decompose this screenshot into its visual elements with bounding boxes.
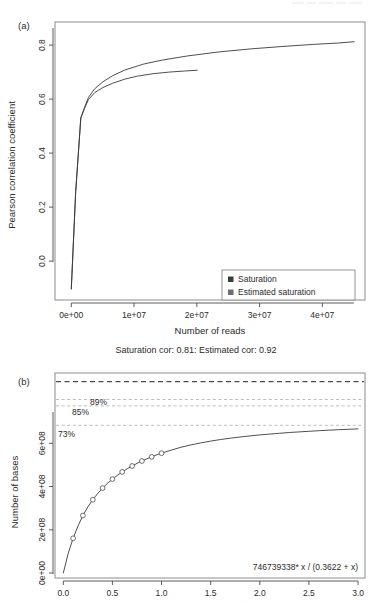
panel-a-y-tick-4: 0.8 (37, 39, 47, 51)
page-header-remnant (292, 2, 362, 4)
panel-a-y-tick-2: 0.4 (37, 147, 47, 159)
panel-a-legend-label-1: Estimated saturation (238, 287, 316, 297)
panel-b-y-tick-3: 6e+08 (37, 431, 47, 455)
panel-a-y-axis-title: Pearson correlation coefficient (6, 101, 17, 229)
panel-a: (a) Pearson correlation coefficient 0.0 … (6, 20, 365, 355)
panel-b-y-axis: 0e+00 2e+08 4e+08 6e+08 (37, 412, 53, 585)
panel-a-plot-frame (55, 22, 365, 300)
legend-swatch-saturation-icon (228, 277, 234, 283)
data-point-marker (130, 464, 135, 469)
panel-a-legend-label-0: Saturation (238, 274, 277, 284)
panel-a-data-area (71, 42, 354, 289)
data-point-marker (140, 459, 145, 464)
panel-a-x-axis: 0e+00 1e+07 2e+07 3e+07 4e+07 (59, 303, 354, 320)
legend-swatch-estimated-saturation-icon (228, 290, 234, 296)
data-point-marker (149, 454, 154, 459)
panel-b-y-tick-1: 2e+08 (37, 518, 47, 542)
panel-a-tag: (a) (18, 20, 30, 31)
panel-b-y-tick-0: 0e+00 (37, 561, 47, 585)
panel-a-y-axis: 0.0 0.2 0.4 0.6 0.8 (37, 28, 53, 267)
panel-b-x-tick-1: 0.5 (106, 588, 118, 598)
data-point-marker (81, 513, 86, 518)
panel-b: (b) Number of bases 0e+00 2e+08 4e+08 6e… (9, 373, 365, 598)
panel-b-y-axis-title: Number of bases (9, 456, 20, 529)
panel-b-x-tick-0: 0.0 (57, 588, 69, 598)
panel-a-x-tick-4: 4e+07 (310, 310, 334, 320)
panel-a-y-tick-3: 0.6 (37, 93, 47, 105)
figure-canvas: (a) Pearson correlation coefficient 0.0 … (0, 0, 380, 604)
panel-a-legend: Saturation Estimated saturation (222, 270, 355, 300)
figure-root: (a) Pearson correlation coefficient 0.0 … (0, 0, 380, 604)
panel-b-y-tick-2: 4e+08 (37, 474, 47, 498)
panel-b-x-tick-4: 2.0 (254, 588, 266, 598)
panel-a-curve-estimated-saturation (71, 42, 354, 289)
panel-b-pct-label-85: 85% (72, 407, 89, 417)
panel-b-x-tick-2: 1.0 (156, 588, 168, 598)
data-point-marker (110, 477, 115, 482)
panel-b-fit-curve (63, 429, 358, 573)
panel-b-pct-label-73: 73% (58, 429, 75, 439)
data-point-marker (159, 451, 164, 456)
data-point-marker (100, 486, 105, 491)
panel-b-tag: (b) (18, 376, 30, 387)
panel-a-caption: Saturation cor: 0.81: Estimated cor: 0.9… (115, 345, 276, 355)
panel-b-x-tick-5: 2.5 (303, 588, 315, 598)
panel-b-x-tick-6: 3.0 (352, 588, 364, 598)
panel-a-x-tick-1: 1e+07 (122, 310, 146, 320)
panel-b-pct-label-89: 89% (90, 397, 107, 407)
data-point-marker (71, 536, 76, 541)
panel-b-x-tick-3: 1.5 (205, 588, 217, 598)
panel-a-y-tick-1: 0.2 (37, 201, 47, 213)
panel-b-markers (71, 451, 164, 541)
panel-a-y-tick-0: 0.0 (37, 255, 47, 267)
panel-b-x-axis: 0.0 0.5 1.0 1.5 2.0 2.5 3.0 (57, 581, 364, 598)
panel-a-x-tick-3: 3e+07 (248, 310, 272, 320)
panel-a-curve-saturation (71, 70, 197, 289)
panel-a-x-tick-0: 0e+00 (59, 310, 83, 320)
panel-a-x-tick-2: 2e+07 (185, 310, 209, 320)
panel-a-x-axis-title: Number of reads (175, 325, 246, 336)
data-point-marker (120, 470, 125, 475)
data-point-marker (90, 497, 95, 502)
panel-b-data-area: 89% 85% 73% 746739338* x / (0.3622 + x) (56, 382, 364, 573)
panel-b-formula-annotation: 746739338* x / (0.3622 + x) (253, 562, 358, 572)
